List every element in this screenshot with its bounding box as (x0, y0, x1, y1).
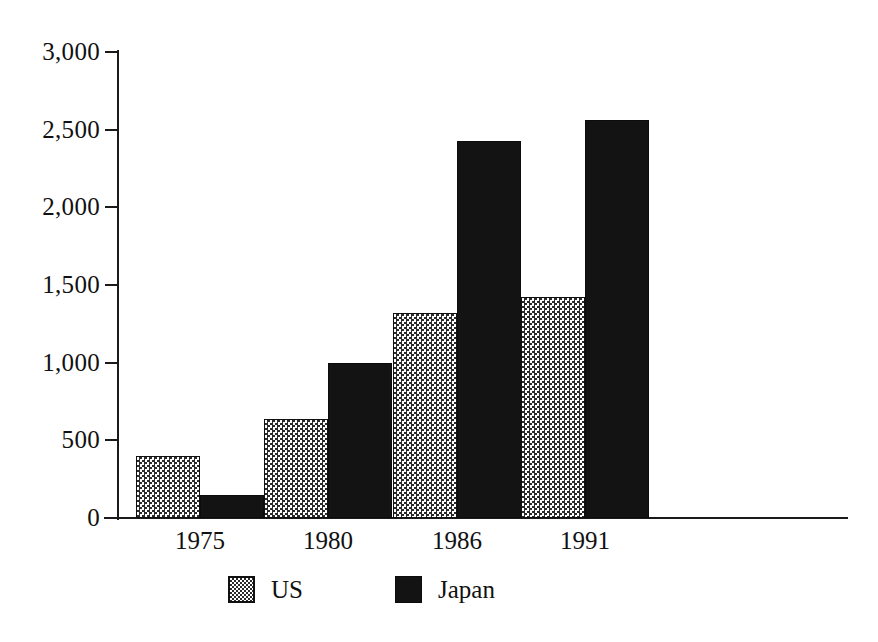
checkered-swatch-icon (228, 576, 255, 603)
legend-label-us: US (271, 577, 303, 602)
y-axis-tick (105, 129, 118, 131)
bar-us-1991 (521, 297, 585, 518)
x-axis-label-1991: 1991 (501, 527, 669, 555)
y-axis-tick (105, 284, 118, 286)
legend-entry-us[interactable]: US (228, 576, 303, 603)
bar-japan-1991 (585, 120, 649, 518)
legend-label-japan: Japan (438, 577, 495, 602)
bar-japan-1980 (328, 363, 392, 518)
y-axis-tick-label: 0 (0, 505, 100, 530)
bar-us-1980 (264, 419, 328, 518)
y-axis-tick-label: 500 (0, 427, 100, 452)
y-axis-tick (105, 206, 118, 208)
legend-entry-japan[interactable]: Japan (395, 576, 495, 603)
bar-us-1975 (136, 456, 200, 518)
chart-legend: US Japan (228, 576, 495, 603)
y-axis-tick (105, 51, 118, 53)
y-axis-tick-label: 3,000 (0, 39, 100, 64)
bar-japan-1975 (200, 495, 264, 518)
y-axis-tick-label: 1,000 (0, 350, 100, 375)
y-axis-tick (105, 439, 118, 441)
y-axis-tick-label: 1,500 (0, 272, 100, 297)
y-axis-tick (105, 362, 118, 364)
y-axis-tick-label: 2,500 (0, 117, 100, 142)
bar-japan-1986 (457, 141, 521, 518)
y-axis-tick-label: 2,000 (0, 194, 100, 219)
solid-black-swatch-icon (395, 576, 422, 603)
bar-us-1986 (393, 313, 457, 518)
bar-chart: 05001,0001,5002,0002,5003,000 1975198019… (0, 0, 878, 642)
